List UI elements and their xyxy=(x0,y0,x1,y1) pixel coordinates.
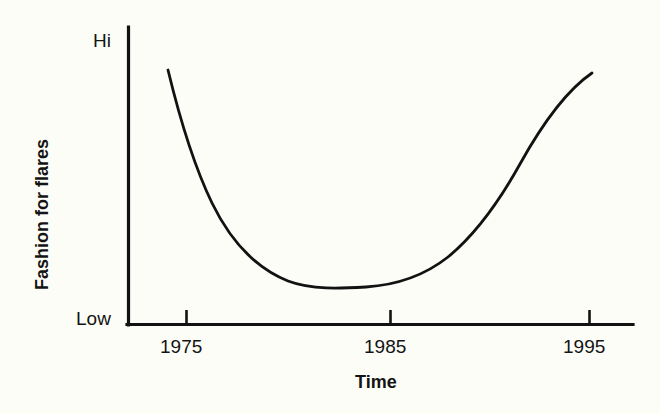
x-tick-label-1975: 1975 xyxy=(160,336,202,358)
y-axis-bottom-label: Low xyxy=(76,308,111,330)
chart-plot-area xyxy=(0,0,660,414)
x-tick-label-1995: 1995 xyxy=(563,336,605,358)
x-axis-title: Time xyxy=(355,372,397,393)
y-axis-title: Fashion for flares xyxy=(32,139,53,290)
y-axis-top-label: Hi xyxy=(93,30,111,52)
x-tick-label-1985: 1985 xyxy=(364,336,406,358)
chart-figure: Hi Low 1975 1985 1995 Time Fashion for f… xyxy=(0,0,660,414)
data-series-curve xyxy=(168,70,592,288)
